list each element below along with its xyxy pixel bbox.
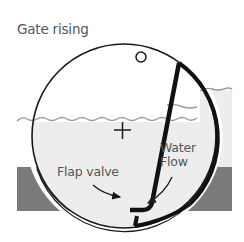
pivot-circle-icon bbox=[136, 52, 146, 62]
flap-valve bbox=[135, 216, 137, 226]
water-flow-label-1: Water bbox=[160, 141, 196, 155]
inner-water bbox=[20, 122, 230, 242]
water-flow-label-2: Flow bbox=[160, 155, 188, 169]
flap-valve-label: Flap valve bbox=[57, 165, 119, 179]
gate-diagram bbox=[0, 0, 244, 242]
